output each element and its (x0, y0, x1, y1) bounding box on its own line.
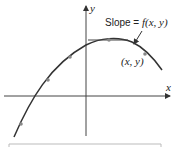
y-axis-label: y (89, 2, 95, 14)
point-label: (x, y) (121, 55, 144, 68)
slope-label: Slope = f(x, y) (105, 16, 168, 29)
annotation-arrow (134, 31, 142, 44)
solution-curve-diagram: x y Slope = f(x, y) (x, y) (0, 0, 175, 147)
solution-curve (14, 38, 162, 137)
x-axis-label: x (165, 81, 171, 93)
curve-points (19, 38, 147, 126)
